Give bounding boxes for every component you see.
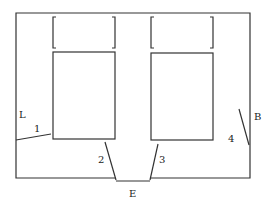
left-bracket-right [112,17,115,48]
door-4 [239,109,249,145]
floor-plan-diagram: L 1 2 3 4 B E [0,0,277,204]
label-B: B [254,111,261,122]
label-door-4: 4 [228,133,234,144]
door-1 [16,134,51,140]
door-2 [105,142,116,180]
label-L: L [19,109,26,120]
label-door-2: 2 [98,154,104,165]
left-room [53,17,115,139]
right-room [151,17,213,140]
outer-wall [16,13,250,178]
outer-walls [16,13,250,181]
label-E: E [129,188,136,199]
label-door-3: 3 [159,154,165,165]
right-bracket-right [210,17,213,48]
right-box [151,53,213,140]
right-bracket-left [151,17,154,48]
left-bracket-left [53,17,56,48]
label-door-1: 1 [34,123,40,134]
door-3 [150,144,158,180]
left-box [53,52,115,139]
